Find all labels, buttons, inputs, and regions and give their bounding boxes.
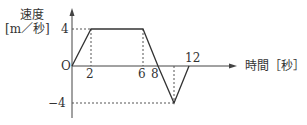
x-axis-label: 時間［秒］ xyxy=(245,60,305,72)
y-tick-neg4: −4 xyxy=(48,97,66,109)
x-tick-8: 8 xyxy=(151,68,159,80)
y-axis-label-line1: 速度 xyxy=(20,9,44,21)
x-axis-arrow-icon xyxy=(229,64,237,69)
x-tick-6: 6 xyxy=(138,68,146,80)
origin-label: O xyxy=(61,60,71,72)
y-axis-arrow-icon xyxy=(70,8,75,16)
y-tick-4: 4 xyxy=(61,23,69,35)
x-tick-12: 12 xyxy=(185,52,200,64)
x-tick-2: 2 xyxy=(86,68,94,80)
y-axis-label-line2: [m／秒] xyxy=(5,23,50,35)
